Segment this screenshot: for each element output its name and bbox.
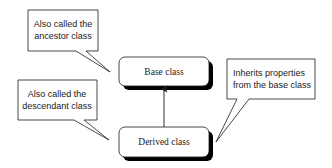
- derived-class-label: Derived class: [138, 137, 190, 147]
- callout-inherits-line-2: from the base class: [233, 80, 312, 90]
- callout-ancestor-line-1: Also called the: [34, 19, 93, 29]
- base-class-node: Base class: [119, 57, 213, 90]
- callout-descendant: Also called the descendant class: [18, 80, 109, 140]
- callout-ancestor: Also called the ancestor class: [28, 10, 110, 72]
- base-class-label: Base class: [144, 67, 184, 77]
- callout-inherits: Inherits properties from the base class: [216, 59, 315, 142]
- callout-descendant-line-1: Also called the: [28, 89, 87, 99]
- callout-descendant-line-2: descendant class: [22, 101, 92, 111]
- callout-inherits-line-1: Inherits properties: [233, 68, 306, 78]
- inheritance-diagram: Also called the ancestor class Also call…: [0, 0, 332, 168]
- callout-ancestor-line-2: ancestor class: [34, 31, 92, 41]
- derived-class-node: Derived class: [119, 127, 213, 161]
